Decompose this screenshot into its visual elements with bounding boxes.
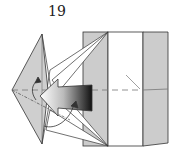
center-white-panel	[108, 32, 143, 146]
origami-diagram	[0, 0, 179, 154]
